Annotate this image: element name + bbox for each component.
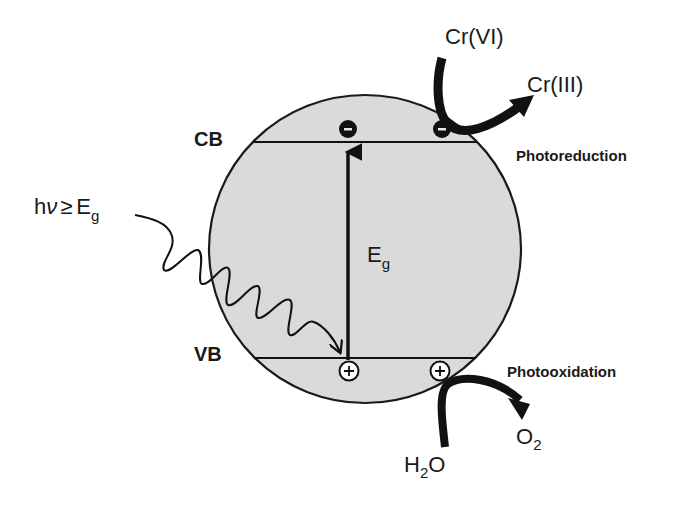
oxidation-arrow [442, 379, 520, 447]
hole-2 [431, 362, 450, 381]
reactant-water: H2O [404, 452, 445, 481]
product-cr3: Cr(III) [527, 72, 583, 97]
reactant-cr6: Cr(VI) [445, 24, 504, 49]
vb-label: VB [194, 343, 222, 365]
photocatalysis-diagram: CB VB Eg hν≥Eg Cr(VI) Cr(III) Photoreduc… [0, 0, 698, 508]
photoreduction-label: Photoreduction [516, 147, 627, 164]
photooxidation-label: Photooxidation [507, 363, 616, 380]
product-oxygen: O2 [516, 424, 541, 453]
electron-1 [339, 120, 357, 138]
oxidation-arrowhead [508, 398, 530, 420]
photon-energy-label: hν≥Eg [34, 194, 99, 224]
hole-1 [340, 362, 359, 381]
cb-label: CB [194, 128, 223, 150]
